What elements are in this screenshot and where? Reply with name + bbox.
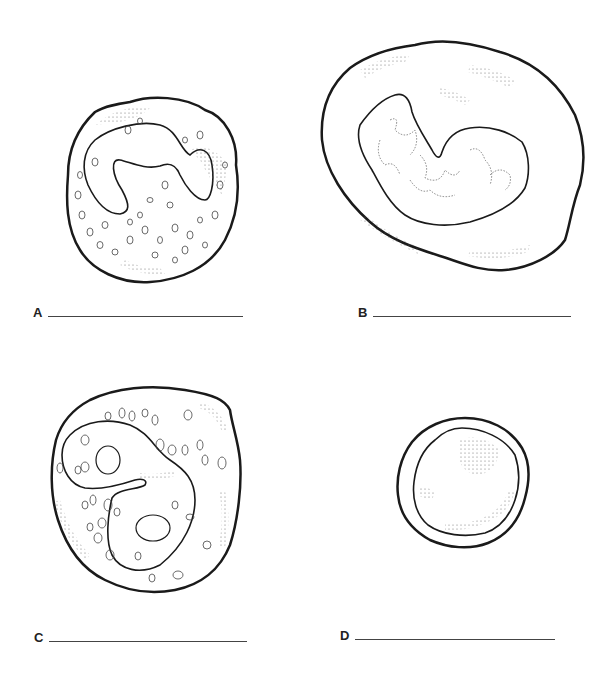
cell-a-nucleus: [84, 123, 213, 214]
cell-c-drawing: [52, 387, 241, 592]
answer-blank-a[interactable]: [48, 316, 243, 317]
cell-c-nucleolus-2: [136, 515, 170, 541]
panel-letter-a: A: [33, 306, 42, 319]
panel-letter-b: B: [358, 306, 367, 319]
label-row-c: C: [34, 631, 247, 644]
cell-b-membrane: [322, 41, 584, 270]
cell-c-membrane: [52, 387, 241, 592]
answer-blank-c[interactable]: [49, 641, 247, 642]
answer-blank-b[interactable]: [373, 316, 571, 317]
label-row-b: B: [358, 306, 571, 319]
label-row-a: A: [33, 306, 243, 319]
cell-b-drawing: [322, 41, 584, 270]
cell-drawings: [0, 0, 605, 675]
cell-c-nucleolus-1: [96, 446, 120, 474]
label-row-d: D: [340, 629, 555, 642]
panel-letter-d: D: [340, 629, 349, 642]
cell-d-drawing: [398, 418, 529, 547]
cell-b-nucleus: [359, 94, 529, 225]
answer-blank-d[interactable]: [355, 639, 555, 640]
panel-letter-c: C: [34, 631, 43, 644]
cell-a-drawing: [67, 98, 238, 282]
